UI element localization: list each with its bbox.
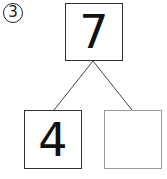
part-box-right-answer[interactable] xyxy=(104,110,162,169)
whole-box: 7 xyxy=(65,3,123,61)
part-box-left: 4 xyxy=(24,110,82,169)
number-bond-problem: 3 7 4 xyxy=(0,0,167,179)
